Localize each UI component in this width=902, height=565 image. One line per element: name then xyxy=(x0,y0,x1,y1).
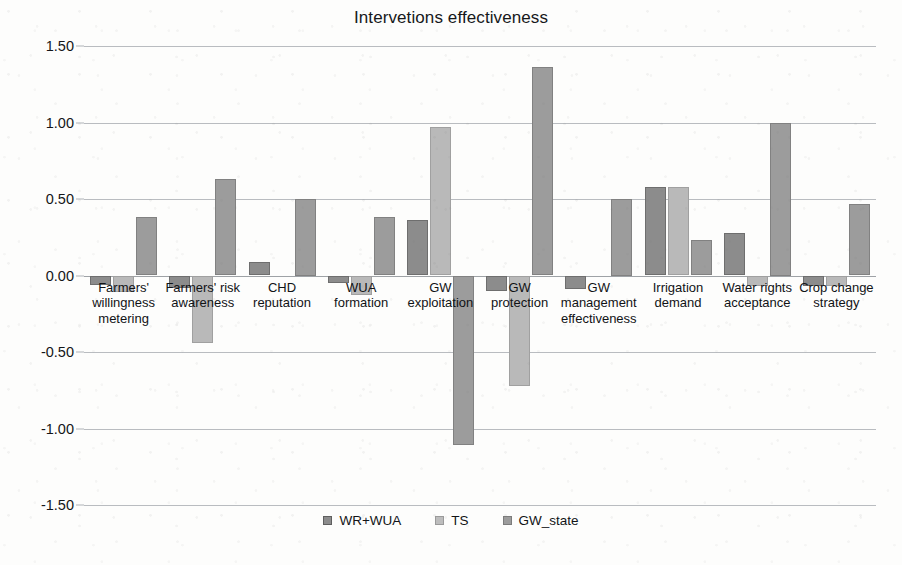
bar-ts-0 xyxy=(113,276,134,293)
gridline xyxy=(84,352,876,353)
bar-gw-state-0 xyxy=(136,217,157,275)
y-axis-tick-label: 0.50 xyxy=(12,191,74,207)
bar-ts-3 xyxy=(351,276,372,296)
bar-wr-wua-3 xyxy=(328,276,349,284)
legend-swatch-icon xyxy=(503,516,512,525)
legend-item-wr-wua[interactable]: WR+WUA xyxy=(323,513,401,528)
bar-ts-7 xyxy=(668,187,689,276)
bar-wr-wua-5 xyxy=(486,276,507,291)
bar-wr-wua-7 xyxy=(645,187,666,276)
y-axis-tick-label: 0.00 xyxy=(12,268,74,284)
legend-item-gw-state[interactable]: GW_state xyxy=(503,513,579,528)
legend-label: WR+WUA xyxy=(339,513,401,528)
y-axis-tick-mark xyxy=(76,199,84,200)
bar-wr-wua-4 xyxy=(407,220,428,275)
legend-item-ts[interactable]: TS xyxy=(435,513,468,528)
bar-gw-state-4 xyxy=(453,276,474,446)
y-axis-tick-mark xyxy=(76,122,84,123)
bar-ts-1 xyxy=(192,276,213,343)
gridline xyxy=(84,199,876,200)
plot-area xyxy=(84,46,876,505)
bar-wr-wua-1 xyxy=(169,276,190,288)
y-axis-tick-label: -0.50 xyxy=(12,344,74,360)
y-axis-tick-label: -1.50 xyxy=(12,497,74,513)
bar-ts-5 xyxy=(509,276,530,386)
y-axis-tick-label: -1.00 xyxy=(12,421,74,437)
bar-gw-state-6 xyxy=(611,199,632,276)
bar-ts-8 xyxy=(747,276,768,287)
bar-gw-state-3 xyxy=(374,217,395,275)
y-axis-tick-label: 1.50 xyxy=(12,38,74,54)
gridline xyxy=(84,46,876,47)
gridline xyxy=(84,429,876,430)
legend-swatch-icon xyxy=(323,516,332,525)
chart-legend: WR+WUATSGW_state xyxy=(0,513,902,528)
y-axis-tick-mark xyxy=(76,428,84,429)
bar-gw-state-1 xyxy=(215,179,236,275)
legend-label: TS xyxy=(451,513,468,528)
bar-wr-wua-9 xyxy=(803,276,824,287)
bar-wr-wua-6 xyxy=(565,276,586,290)
bar-gw-state-5 xyxy=(532,67,553,275)
y-axis-tick-label: 1.00 xyxy=(12,115,74,131)
bar-wr-wua-2 xyxy=(249,262,270,276)
y-axis-tick-mark xyxy=(76,275,84,276)
gridline xyxy=(84,505,876,506)
chart-title: Intervetions effectiveness xyxy=(0,8,902,28)
y-axis-tick-mark xyxy=(76,46,84,47)
bar-wr-wua-0 xyxy=(90,276,111,285)
bar-wr-wua-8 xyxy=(724,233,745,276)
bar-gw-state-8 xyxy=(770,123,791,276)
bar-gw-state-2 xyxy=(295,199,316,276)
bar-gw-state-7 xyxy=(691,240,712,275)
bar-gw-state-9 xyxy=(849,204,870,276)
chart-page: Intervetions effectiveness 1.501.000.500… xyxy=(0,0,902,565)
legend-swatch-icon xyxy=(435,516,444,525)
gridline xyxy=(84,123,876,124)
bar-ts-4 xyxy=(430,127,451,275)
y-axis-tick-mark xyxy=(76,505,84,506)
legend-label: GW_state xyxy=(519,513,579,528)
y-axis-tick-mark xyxy=(76,352,84,353)
bar-ts-9 xyxy=(826,276,847,287)
